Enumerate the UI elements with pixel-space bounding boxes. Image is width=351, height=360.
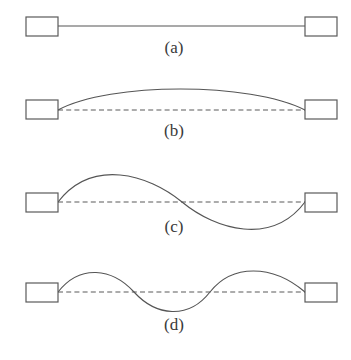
figure-container: (a) (b) (c) (d) — [0, 0, 351, 360]
panel-c: (c) — [26, 175, 337, 236]
panel-c-label: (c) — [165, 217, 184, 236]
panel-b: (b) — [26, 89, 337, 140]
panel-c-right-node-box[interactable] — [305, 193, 337, 212]
panel-d-right-node-box[interactable] — [305, 283, 337, 302]
panel-d-connector-curve — [58, 271, 305, 312]
panel-b-right-node-box[interactable] — [305, 100, 337, 119]
link-shapes-diagram: (a) (b) (c) (d) — [0, 0, 351, 360]
panel-b-left-node-box[interactable] — [26, 100, 58, 119]
panel-a: (a) — [26, 17, 337, 57]
panel-d-left-node-box[interactable] — [26, 283, 58, 302]
panel-b-connector-curve — [58, 89, 305, 110]
panel-d: (d) — [26, 271, 337, 334]
panel-a-left-node-box[interactable] — [26, 17, 58, 36]
panel-d-label: (d) — [164, 315, 184, 334]
panel-a-right-node-box[interactable] — [305, 17, 337, 36]
panel-a-label: (a) — [165, 38, 184, 57]
panel-b-label: (b) — [164, 121, 184, 140]
panel-c-left-node-box[interactable] — [26, 193, 58, 212]
